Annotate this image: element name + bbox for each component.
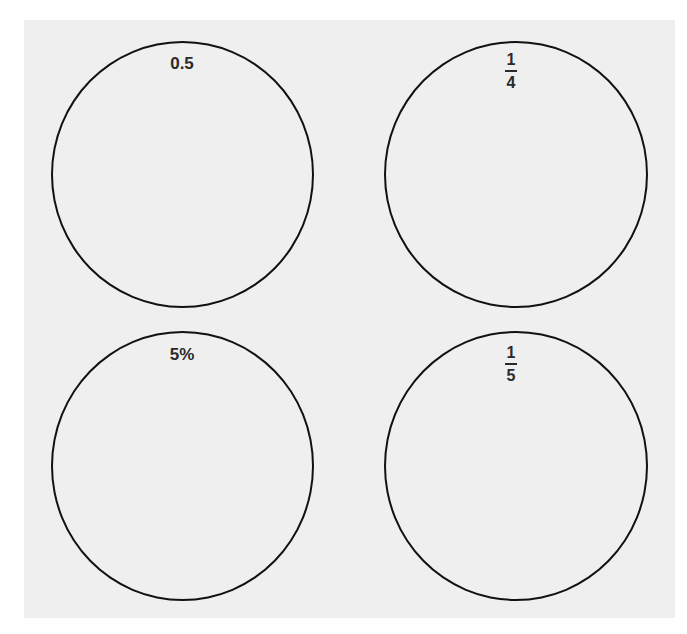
fraction-numerator: 1 <box>507 345 516 363</box>
fraction-denominator: 5 <box>507 365 516 384</box>
circle-bottom-left <box>51 331 314 601</box>
circle-label-decimal: 0.5 <box>170 55 194 72</box>
circle-label-fraction-fifth: 1 5 <box>505 345 517 384</box>
fraction-numerator: 1 <box>507 52 516 70</box>
circle-label-fraction-quarter: 1 4 <box>505 52 517 91</box>
fraction-denominator: 4 <box>507 72 516 91</box>
circle-label-percent: 5% <box>170 346 195 363</box>
circle-top-left <box>51 41 314 308</box>
